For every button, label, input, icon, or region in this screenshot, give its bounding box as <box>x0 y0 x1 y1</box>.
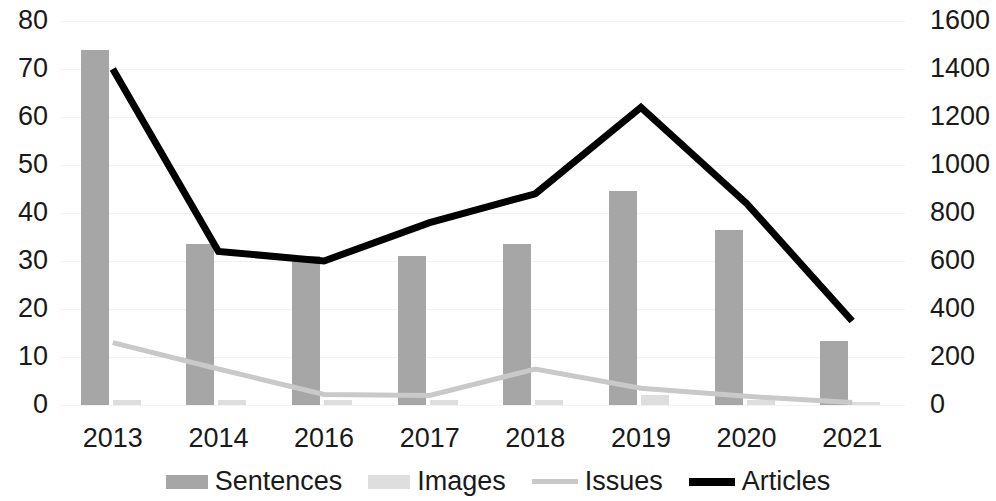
x-axis-tick-2019: 2019 <box>588 418 694 458</box>
x-axis-tick-2016: 2016 <box>271 418 377 458</box>
y-axis-right-tick: 600 <box>930 247 975 274</box>
line-series-layer <box>60 21 905 405</box>
y-axis-right: 1600 1400 1200 1000 800 600 400 200 0 <box>930 0 996 501</box>
y-axis-left-tick: 40 <box>18 199 48 226</box>
legend-item-sentences[interactable]: Sentences <box>166 468 343 495</box>
y-axis-right-tick: 1200 <box>930 103 990 130</box>
x-axis-tick-2018: 2018 <box>483 418 589 458</box>
y-axis-left-tick: 80 <box>18 7 48 34</box>
legend-swatch-icon-issues <box>532 479 578 484</box>
legend-swatch-icon-sentences <box>166 475 208 489</box>
y-axis-left-tick: 70 <box>18 55 48 82</box>
chart-legend: SentencesImagesIssuesArticles <box>0 462 996 501</box>
x-axis-tick-2020: 2020 <box>694 418 800 458</box>
plot-area <box>60 21 905 405</box>
x-axis-tick-2017: 2017 <box>377 418 483 458</box>
y-axis-left-tick: 20 <box>18 295 48 322</box>
y-axis-left-tick: 10 <box>18 343 48 370</box>
legend-item-issues[interactable]: Issues <box>532 468 663 495</box>
line-articles <box>113 69 852 321</box>
x-axis-tick-2013: 2013 <box>60 418 166 458</box>
y-axis-left-tick: 30 <box>18 247 48 274</box>
legend-item-articles[interactable]: Articles <box>689 468 831 495</box>
y-axis-right-tick: 0 <box>930 391 945 418</box>
chart-container: 80 70 60 50 40 30 20 10 0 1600 1400 1200… <box>0 0 996 501</box>
y-axis-left: 80 70 60 50 40 30 20 10 0 <box>0 0 48 501</box>
y-axis-right-tick: 1000 <box>930 151 990 178</box>
legend-swatch-icon-images <box>368 475 410 489</box>
y-axis-right-tick: 800 <box>930 199 975 226</box>
x-axis: 20132014201620172018201920202021 <box>60 418 905 458</box>
y-axis-right-tick: 1600 <box>930 7 990 34</box>
legend-label: Images <box>417 468 506 495</box>
gridline <box>60 405 905 406</box>
y-axis-left-tick: 60 <box>18 103 48 130</box>
legend-swatch-icon-articles <box>689 478 735 486</box>
x-axis-tick-2014: 2014 <box>166 418 272 458</box>
legend-item-images[interactable]: Images <box>368 468 506 495</box>
legend-label: Articles <box>742 468 831 495</box>
y-axis-left-tick: 0 <box>33 391 48 418</box>
line-issues <box>113 343 852 403</box>
y-axis-left-tick: 50 <box>18 151 48 178</box>
y-axis-right-tick: 400 <box>930 295 975 322</box>
legend-label: Sentences <box>215 468 343 495</box>
y-axis-right-tick: 200 <box>930 343 975 370</box>
x-axis-tick-2021: 2021 <box>799 418 905 458</box>
y-axis-right-tick: 1400 <box>930 55 990 82</box>
legend-label: Issues <box>585 468 663 495</box>
